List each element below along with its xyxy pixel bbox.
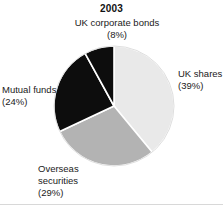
slice-label-overseas-securities: Overseas securities (29%) [38,163,108,199]
pie-chart-figure: 2003 UK corporate bonds (8%) UK shares (… [0,0,223,205]
slice-label-uk-shares: UK shares (39%) [178,68,223,92]
slice-label-mutual-funds: Mutual funds (24%) [2,84,60,108]
slice-label-uk-corporate-bonds: UK corporate bonds (8%) [62,17,172,41]
pie-slice-group [54,46,174,166]
